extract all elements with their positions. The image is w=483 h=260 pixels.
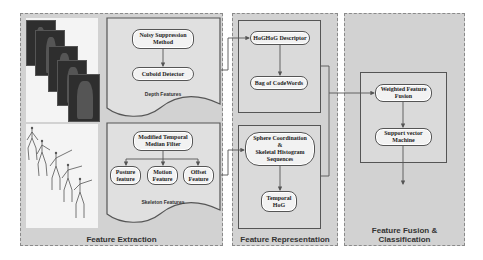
connector-arrows xyxy=(0,0,483,260)
